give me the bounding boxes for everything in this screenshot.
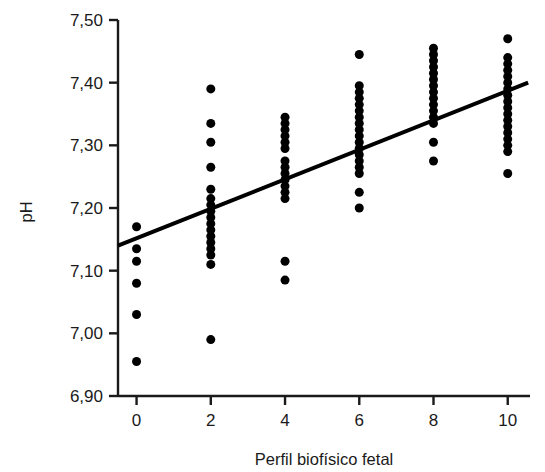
x-axis-tick-label: 4 bbox=[280, 411, 289, 430]
data-point bbox=[132, 222, 141, 231]
data-point bbox=[355, 204, 364, 213]
x-axis-tick-label: 0 bbox=[132, 411, 141, 430]
data-point bbox=[429, 138, 438, 147]
data-point bbox=[281, 194, 290, 203]
data-point bbox=[132, 244, 141, 253]
y-axis-tick-label: 7,00 bbox=[70, 324, 103, 343]
data-point bbox=[281, 276, 290, 285]
x-axis-title: Perfil biofísico fetal bbox=[255, 450, 393, 468]
chart-canvas: 6,907,007,107,207,307,407,50 0246810 pHP… bbox=[0, 0, 545, 472]
scatter-chart: 6,907,007,107,207,307,407,50 0246810 pHP… bbox=[0, 0, 545, 472]
data-point bbox=[503, 147, 512, 156]
data-point bbox=[132, 257, 141, 266]
data-point bbox=[206, 84, 215, 93]
data-point bbox=[206, 185, 215, 194]
y-axis-title: pH bbox=[17, 201, 35, 222]
data-point bbox=[429, 157, 438, 166]
x-axis-tick-label: 6 bbox=[355, 411, 364, 430]
data-point bbox=[503, 169, 512, 178]
y-axis-tick-label: 7,30 bbox=[70, 136, 103, 155]
x-axis-tick-label: 10 bbox=[498, 411, 517, 430]
data-point bbox=[281, 257, 290, 266]
data-point bbox=[206, 335, 215, 344]
data-point bbox=[206, 163, 215, 172]
data-point bbox=[132, 279, 141, 288]
data-point bbox=[503, 34, 512, 43]
data-point bbox=[281, 144, 290, 153]
y-axis-tick-label: 6,90 bbox=[70, 387, 103, 406]
y-axis-tick-label: 7,40 bbox=[70, 74, 103, 93]
data-point bbox=[206, 119, 215, 128]
data-point bbox=[355, 169, 364, 178]
y-axis-tick-label: 7,50 bbox=[70, 11, 103, 30]
y-axis-tick-label: 7,10 bbox=[70, 262, 103, 281]
x-axis-tick-label: 8 bbox=[429, 411, 438, 430]
x-axis-tick-label: 2 bbox=[206, 411, 215, 430]
data-point bbox=[206, 260, 215, 269]
data-point bbox=[132, 310, 141, 319]
data-point bbox=[132, 357, 141, 366]
data-point bbox=[355, 50, 364, 59]
data-point bbox=[355, 188, 364, 197]
data-point bbox=[206, 251, 215, 260]
data-point bbox=[206, 138, 215, 147]
y-axis-tick-label: 7,20 bbox=[70, 199, 103, 218]
